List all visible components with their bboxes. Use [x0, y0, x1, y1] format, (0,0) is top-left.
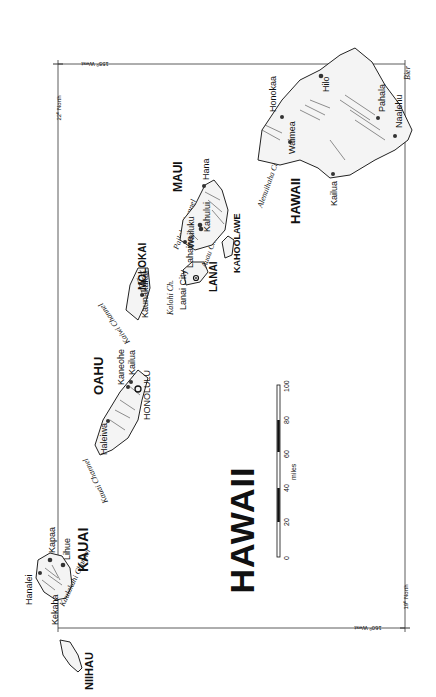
scale-tick-60: 60	[283, 450, 290, 458]
lat-label-22: 22º North	[56, 95, 62, 120]
island-label-lanai: LANAI	[208, 261, 219, 292]
town-hilo: Hilo	[321, 76, 331, 92]
island-label-oahu: OAHU	[91, 357, 106, 395]
town-hana: Hana	[201, 158, 211, 180]
town-kailua-hawaii: Kailua	[329, 181, 339, 206]
scale-bar	[277, 385, 280, 557]
channel-kalohi: Kalohi Ch.	[166, 280, 175, 316]
town-honokaa: Honokaa	[268, 76, 278, 112]
town-wailuku: Wailuku	[186, 216, 196, 248]
town-hanalei: Hanalei	[24, 574, 34, 605]
hawaii-map: 155º West 22º North 160º West 19º North …	[0, 0, 436, 697]
town-kahului: Kahului	[202, 202, 212, 232]
channel-kauai: Kauai Channel	[81, 456, 110, 506]
town-kaneohe: Kaneohe	[116, 349, 126, 385]
map-title: HAWAII	[223, 467, 261, 594]
scale-tick-40: 40	[283, 484, 290, 492]
lat-label-19: 19º North	[403, 584, 409, 609]
scale-tick-80: 80	[283, 416, 290, 424]
town-kekaha: Kekaha	[50, 594, 60, 625]
island-label-molokai: MOLOKAI	[137, 243, 148, 290]
island-label-maui: MAUI	[171, 161, 185, 192]
island-label-niihau: NIIHAU	[83, 652, 95, 690]
scale-tick-100: 100	[283, 380, 290, 392]
scale-unit: miles	[290, 463, 297, 480]
town-kailua-oahu: Kailua	[127, 350, 137, 375]
town-naalehu: Naalehu	[394, 94, 404, 128]
town-pahala: Pahala	[377, 84, 387, 112]
island-label-kahoolawe: KAHOOLAWE	[232, 214, 242, 274]
niihau-island	[60, 640, 82, 672]
town-kapaa: Kapaa	[47, 527, 57, 553]
town-lihue: Lihue	[62, 538, 72, 560]
scale-tick-0: 0	[283, 556, 290, 560]
town-lanai-city: Lanai City	[178, 269, 188, 310]
signature: Bier	[403, 65, 412, 80]
town-haleiwa: Haleiwa	[99, 423, 109, 455]
town-honolulu: HONOLULU	[142, 370, 152, 420]
hawaii-island	[258, 48, 412, 178]
island-label-hawaii: HAWAII	[288, 178, 303, 224]
scale-tick-20: 20	[283, 518, 290, 526]
town-waimea: Waimea	[287, 121, 297, 154]
lon-label-160: 160º West	[354, 625, 382, 631]
lon-label-155: 155º West	[81, 61, 109, 67]
